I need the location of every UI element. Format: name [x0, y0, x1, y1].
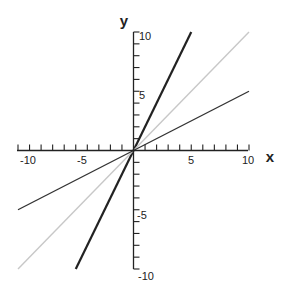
y-tick-label: 5	[139, 89, 145, 101]
x-tick-labels: -10 -5 5 10	[20, 154, 254, 166]
y-tick-label: -10	[138, 270, 154, 282]
y-axis-title: y	[120, 12, 129, 29]
y-tick-label: 10	[139, 30, 151, 42]
y-tick-labels: 10 5 -5 -10	[137, 30, 154, 282]
x-tick-label: 10	[242, 154, 254, 166]
x-axis-title: x	[266, 148, 275, 165]
x-tick-label: -5	[77, 154, 87, 166]
x-tick-label: -10	[20, 154, 36, 166]
y-tick-label: -5	[137, 209, 147, 221]
x-tick-label: 5	[188, 154, 194, 166]
coordinate-plane: -10 -5 5 10 10 5 -5 -10 y x	[0, 0, 290, 298]
